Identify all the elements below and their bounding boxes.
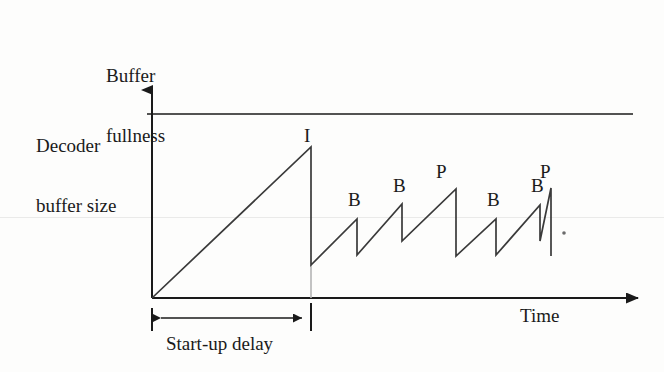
frame-type-label-p-3: P <box>436 162 447 182</box>
frame-type-label-b-4: B <box>487 190 500 210</box>
decoder-buffer-size-line2: buffer size <box>36 196 116 216</box>
x-axis-title: Time <box>520 306 559 326</box>
stray-dot-mark <box>562 231 566 235</box>
frame-type-label-b-1: B <box>348 190 361 210</box>
buffer-fullness-diagram: Buffer fullness Decoder buffer size Time… <box>0 0 664 372</box>
y-axis-title-line1: Buffer <box>106 66 165 86</box>
decoder-buffer-size-label: Decoder buffer size <box>36 96 116 256</box>
buffer-fullness-trace <box>152 147 551 298</box>
frame-type-label-p-6: P <box>540 162 551 182</box>
frame-type-label-i-0: I <box>304 126 310 146</box>
decoder-buffer-size-line1: Decoder <box>36 136 116 156</box>
frame-type-label-b-2: B <box>393 176 406 196</box>
startup-delay-label: Start-up delay <box>166 334 273 354</box>
